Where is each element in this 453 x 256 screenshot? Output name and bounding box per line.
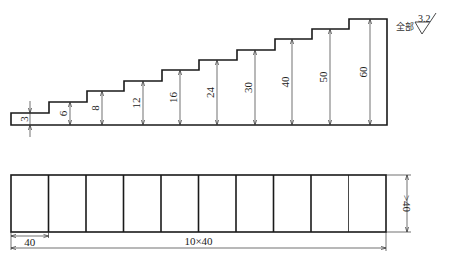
step-height-label: 16 — [167, 92, 179, 104]
step-dimension: 3 — [18, 101, 32, 137]
step-height-label: 50 — [317, 71, 329, 83]
step-height-label: 3 — [18, 116, 30, 122]
surface-finish-note: 全部 3.2 — [396, 13, 436, 34]
step-dimension: 8 — [89, 91, 104, 125]
step-height-label: 40 — [279, 76, 291, 88]
step-height-label: 24 — [204, 87, 216, 99]
step-dimension: 30 — [242, 50, 257, 125]
segment-strip: 4010×40>40 — [11, 175, 413, 251]
cell-width-label: 40 — [24, 236, 36, 248]
step-dimension: 60 — [357, 19, 372, 125]
staircase-outline — [11, 19, 387, 125]
step-dimension: 12 — [130, 81, 145, 125]
finish-prefix-label: 全部 — [396, 21, 414, 32]
staircase-profile: 36812162430405060 — [11, 19, 387, 137]
step-height-label: 30 — [242, 82, 254, 94]
total-length-label: 10×40 — [184, 235, 213, 247]
step-dimension: 50 — [317, 29, 332, 125]
step-height-label: 12 — [130, 98, 142, 109]
technical-drawing: 36812162430405060 全部 3.2 4010×40>40 — [0, 0, 453, 256]
height-label: >40 — [401, 195, 413, 213]
step-dimension: 6 — [57, 102, 72, 125]
step-dimension: 24 — [204, 60, 219, 125]
step-dimension: 40 — [279, 39, 294, 125]
step-height-label: 60 — [357, 66, 369, 78]
step-height-label: 6 — [57, 110, 69, 116]
step-height-label: 8 — [89, 105, 101, 111]
step-dimension: 16 — [167, 70, 182, 125]
